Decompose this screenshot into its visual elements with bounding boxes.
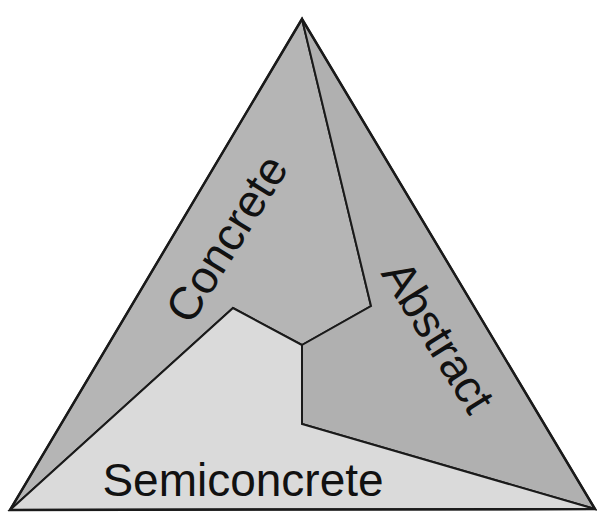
concrete-semiconcrete-abstract-triangle: Concrete Abstract Semiconcrete <box>0 0 610 527</box>
label-semiconcrete: Semiconcrete <box>102 454 383 506</box>
